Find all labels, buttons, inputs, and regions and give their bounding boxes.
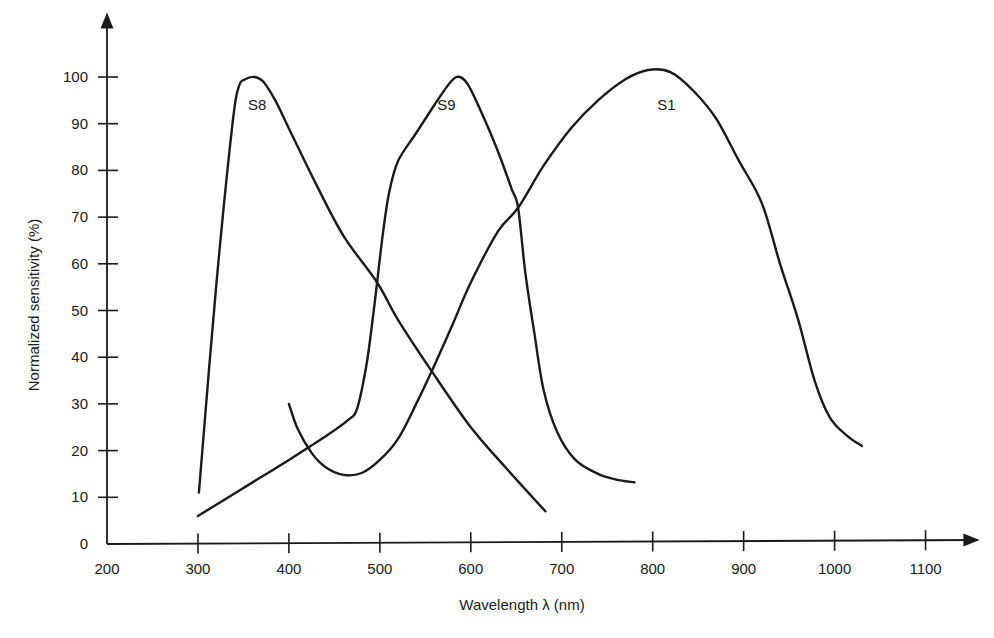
y-tick-label: 80 [71, 161, 88, 178]
x-ticks: 20030040050060070080090010001100 [94, 530, 941, 577]
series-label-s9: S9 [437, 96, 455, 113]
x-tick-label: 700 [549, 560, 574, 577]
x-tick-label: 200 [94, 560, 119, 577]
y-tick-label: 0 [80, 535, 88, 552]
x-tick-label: 500 [367, 560, 392, 577]
y-tick-label: 90 [71, 115, 88, 132]
sensitivity-chart: 0102030405060708090100 20030040050060070… [0, 0, 994, 638]
y-tick-label: 40 [71, 348, 88, 365]
y-tick-label: 10 [71, 488, 88, 505]
x-tick-label: 600 [458, 560, 483, 577]
series-labels: S8S9S1 [248, 96, 676, 113]
y-tick-label: 20 [71, 442, 88, 459]
series-label-s1: S1 [657, 96, 675, 113]
curves [198, 69, 862, 516]
x-axis [107, 540, 978, 544]
y-axis-title: Normalized sensitivity (%) [25, 219, 42, 392]
series-label-s8: S8 [248, 96, 266, 113]
y-tick-label: 30 [71, 395, 88, 412]
x-tick-label: 1000 [818, 560, 851, 577]
y-tick-label: 100 [63, 68, 88, 85]
curve-s1 [289, 69, 862, 475]
x-tick-label: 300 [185, 560, 210, 577]
y-tick-label: 50 [71, 302, 88, 319]
x-tick-label: 800 [640, 560, 665, 577]
y-ticks: 0102030405060708090100 [63, 68, 118, 552]
curve-s9 [198, 77, 635, 516]
y-tick-label: 70 [71, 208, 88, 225]
y-tick-label: 60 [71, 255, 88, 272]
x-tick-label: 400 [276, 560, 301, 577]
x-axis-title: Wavelength λ (nm) [459, 596, 584, 613]
x-tick-label: 1100 [909, 560, 941, 577]
x-tick-label: 900 [731, 560, 756, 577]
